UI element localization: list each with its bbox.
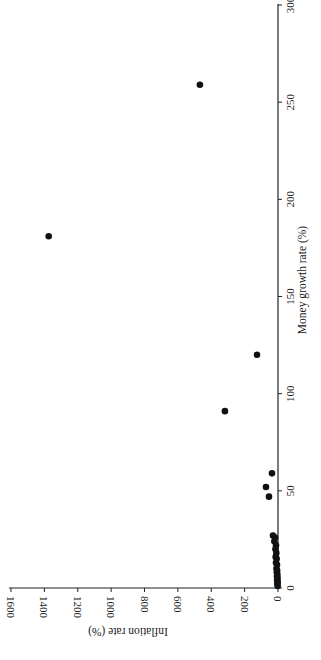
y-tick-label: 400 [205,596,217,613]
y-tick-label: 600 [172,596,184,613]
data-point [197,81,204,88]
x-tick-label: 150 [284,288,296,305]
data-point [263,484,270,491]
x-tick-label: 250 [284,93,296,110]
scatter-chart: 050100150200250300 020040060080010001200… [0,0,321,660]
data-point [254,352,261,359]
x-tick-label: 100 [284,385,296,402]
y-tick-label: 200 [239,596,251,613]
inflation-ticks: 02004006008001000120014001600 [5,588,284,619]
data-point [269,470,276,477]
x-tick-label: 300 [284,0,296,13]
data-point [274,583,281,590]
y-axis-title: Inflation rate (%) [88,625,168,638]
y-tick-label: 1000 [105,596,117,619]
x-axis-title: Money growth rate (%) [296,226,309,334]
data-point [266,493,273,500]
y-tick-label: 1400 [38,596,50,619]
x-tick-label: 50 [284,485,296,497]
y-tick-label: 800 [139,596,151,613]
x-tick-label: 200 [284,191,296,208]
data-points [45,81,281,589]
y-tick-label: 1600 [5,596,17,619]
data-point [45,233,52,240]
money-growth-ticks: 050100150200250300 [278,0,296,591]
data-point [222,408,229,415]
y-tick-label: 0 [272,596,284,602]
y-tick-label: 1200 [72,596,84,619]
x-tick-label: 0 [284,585,296,591]
